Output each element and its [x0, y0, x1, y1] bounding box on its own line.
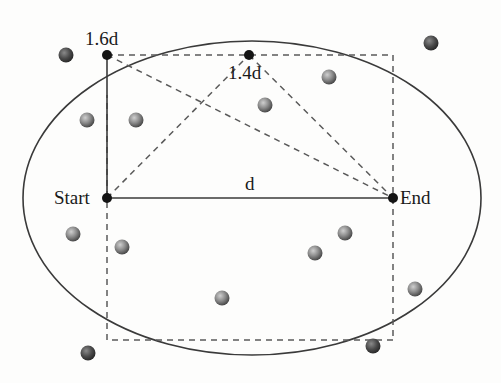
distance-d-label: d [245, 174, 255, 193]
obstacle-ball-icon [258, 98, 273, 113]
obstacle-ball-icon [322, 70, 337, 85]
obstacle-ball-icon [215, 291, 230, 306]
obstacle-ball-icon [59, 48, 74, 63]
obstacle-ball-icon [81, 346, 96, 361]
obstacle-ball-icon [366, 339, 381, 354]
point-1-6d-dot [102, 50, 112, 60]
obstacle-ball-icon [66, 227, 81, 242]
obstacle-ball-icon [308, 246, 323, 261]
path-1-4d-to-end [249, 55, 393, 198]
route-diagram: Start End d 1.6d 1.4d [0, 0, 501, 383]
obstacle-ball-icon [408, 282, 423, 297]
obstacle-ball-icon [338, 226, 353, 241]
obstacle-ball-icon [115, 240, 130, 255]
obstacle-ball-icon [129, 113, 144, 128]
obstacle-ball-icon [80, 113, 95, 128]
end-label: End [400, 188, 431, 207]
end-point-dot [388, 193, 398, 203]
obstacle-ball-icon [424, 36, 439, 51]
point-1-4d-dot [244, 50, 254, 60]
start-point-dot [102, 193, 112, 203]
point-1-4d-label: 1.4d [228, 63, 261, 82]
start-label: Start [54, 188, 90, 207]
point-1-6d-label: 1.6d [85, 29, 118, 48]
